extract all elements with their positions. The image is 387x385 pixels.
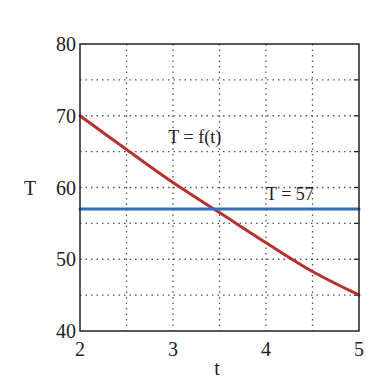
y-tick-label: 40 xyxy=(56,320,76,342)
y-tick-label: 60 xyxy=(56,177,76,199)
y-axis-label: T xyxy=(24,177,36,199)
line-chart: 4050607080 2345 t T T = f(t)T = 57 xyxy=(0,0,387,385)
y-tick-label: 50 xyxy=(56,248,76,270)
y-tick-label: 70 xyxy=(56,105,76,127)
x-tick-label: 3 xyxy=(168,338,178,360)
x-tick-label: 4 xyxy=(261,338,271,360)
x-tick-label: 2 xyxy=(75,338,85,360)
annotation-label: T = f(t) xyxy=(168,127,221,148)
x-axis-label: t xyxy=(214,357,220,379)
y-tick-label: 80 xyxy=(56,33,76,55)
y-tick-labels: 4050607080 xyxy=(56,33,76,342)
annotation-label: T = 57 xyxy=(266,184,314,204)
grid-lines xyxy=(80,44,359,331)
x-tick-label: 5 xyxy=(354,338,364,360)
